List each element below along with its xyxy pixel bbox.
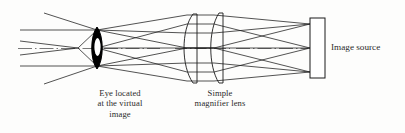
eye-caption: Eye located at the virtual image	[60, 88, 180, 119]
ray-bundle-source-top	[97, 15, 310, 48]
image-source-label: Image source	[331, 42, 380, 53]
eye-pupil-icon	[94, 38, 100, 56]
image-source-panel	[310, 18, 325, 78]
ray-bundle-source-bottom	[97, 48, 310, 81]
eye	[92, 27, 103, 69]
figure-canvas: Eye located at the virtual image Simple …	[0, 0, 405, 133]
magnifier-lens-caption: Simple magnifier lens	[168, 88, 272, 109]
ray-bundle-group	[97, 15, 310, 81]
